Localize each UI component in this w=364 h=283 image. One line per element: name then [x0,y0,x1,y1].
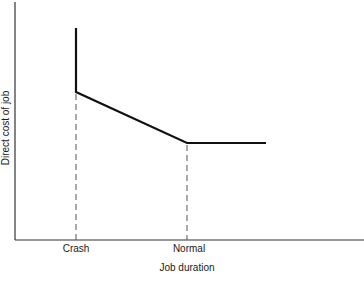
x-tick-crash: Crash [63,243,90,254]
x-axis-label: Job duration [159,262,214,273]
x-tick-normal: Normal [173,243,205,254]
direct-cost-chart: Crash Normal Job duration Direct cost of… [0,0,364,283]
y-axis-label: Direct cost of job [0,90,11,165]
direct-cost-curve [76,28,266,143]
